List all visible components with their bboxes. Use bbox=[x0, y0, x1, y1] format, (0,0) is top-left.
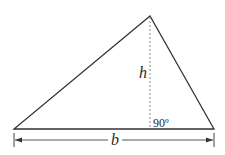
triangle-diagram: h 90º b bbox=[0, 0, 225, 155]
triangle-outline bbox=[14, 16, 214, 129]
arrowhead-left-icon bbox=[15, 138, 22, 143]
arrowhead-right-icon bbox=[206, 138, 213, 143]
right-angle-label: 90º bbox=[153, 117, 169, 129]
base-label: b bbox=[108, 132, 122, 148]
height-label: h bbox=[139, 65, 147, 81]
